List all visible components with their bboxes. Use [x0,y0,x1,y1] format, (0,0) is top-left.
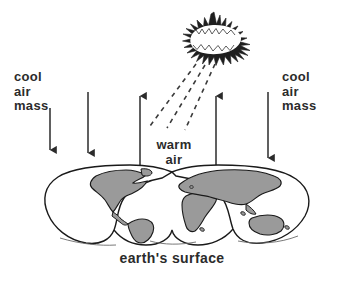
cool-air-mass-label-left: cool air mass [14,70,48,114]
world-map-interrupted-projection-icon [45,165,309,245]
cool-air-mass-label-right: cool air mass [282,70,316,114]
warm-air-label: warm air [150,138,198,167]
sun-starburst-icon [183,12,251,66]
sun-rays-dashed-icon [150,64,215,130]
earth-surface-caption: earth's surface [0,251,344,266]
sun-ray-1 [150,64,196,126]
diagram-canvas: cool air mass cool air mass warm air ear… [0,0,344,281]
